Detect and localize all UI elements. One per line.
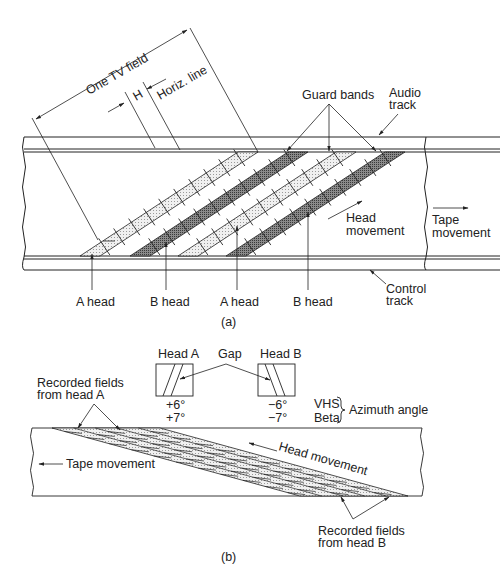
head-a-label: Head A (158, 347, 200, 361)
b-head-label-2: B head (293, 295, 333, 309)
head-movement-label-a: Head (346, 211, 376, 225)
guard-bands-label: Guard bands (302, 88, 374, 102)
one-tv-field-label: One TV field (84, 51, 151, 98)
tape-track-diagram: One TV field H Horiz. line Guard bands A… (0, 0, 502, 579)
beta-label: Beta (314, 411, 340, 425)
head-b-label: Head B (260, 347, 302, 361)
caption-b: (b) (221, 550, 236, 564)
gap-arrows (180, 364, 270, 380)
track-segment-lines (99, 149, 391, 255)
head-movement-label-a-2: movement (346, 224, 405, 238)
guard-band-arrows (287, 104, 376, 151)
tape-movement-label-a-2: movement (432, 226, 491, 240)
tape-movement-label-a: Tape (432, 213, 459, 227)
caption-a: (a) (221, 315, 236, 329)
a-head-label-1: A head (76, 295, 115, 309)
head-a-vhs-angle: +6° (166, 398, 185, 412)
b-head-label-1: B head (150, 295, 190, 309)
audio-track-label-2: track (389, 98, 417, 112)
vhs-label: VHS (314, 397, 340, 411)
recorded-b-label-2: from head B (318, 536, 386, 550)
head-b-box (258, 364, 295, 396)
azimuth-angle-label: Azimuth angle (349, 403, 428, 417)
tape-movement-label-b: Tape movement (66, 457, 155, 471)
head-b-vhs-angle: −6° (268, 398, 287, 412)
control-track-label-2: track (386, 294, 414, 308)
head-b-beta-angle: −7° (268, 411, 287, 425)
a-head-label-2: A head (220, 295, 259, 309)
horiz-line-label: Horiz. line (155, 63, 210, 103)
h-label: H (131, 87, 146, 104)
recorded-b-arrows (341, 497, 389, 519)
gap-label: Gap (218, 347, 242, 361)
head-a-box (156, 364, 193, 396)
recorded-a-arrows (78, 404, 120, 430)
recorded-a-label-2: from head A (37, 388, 105, 402)
head-a-beta-angle: +7° (166, 411, 185, 425)
